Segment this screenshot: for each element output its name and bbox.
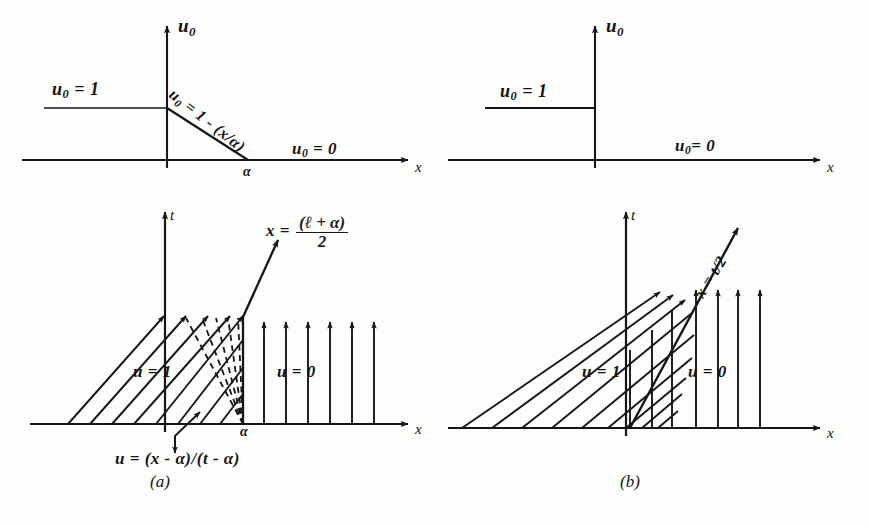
u0-axis-label: u0: [178, 16, 196, 39]
shock-path: [243, 240, 278, 424]
fan-formula-pointer: [175, 412, 200, 453]
x-axis-label: x: [827, 160, 834, 175]
u0-axis-label: u0: [606, 16, 624, 39]
shock-equation-lhs: x =: [266, 222, 290, 239]
t-axis-label: t: [631, 208, 636, 223]
panel-a-initial-profile: u0 x u0 = 1 u0 = 0 u0 = 1 - (x/α) α: [0, 0, 440, 200]
alpha-tick-label: α: [240, 425, 248, 439]
x-axis-label: x: [415, 160, 422, 175]
x-axis-label: x: [827, 426, 834, 441]
u0-equals-zero-label: u0= 0: [675, 137, 715, 157]
x-axis-label: x: [415, 422, 422, 437]
u-equals-one-region-label: u = 1: [582, 363, 621, 380]
panel-a-caption: (a): [150, 472, 170, 492]
u-equals-zero-region-label: u = 0: [688, 363, 727, 380]
panel-b-initial-profile: u0 x u0 = 1 u0= 0: [430, 0, 869, 200]
t-axis-label: t: [170, 208, 175, 223]
panel-b-characteristics-svg: [430, 200, 869, 526]
fan-formula-label: u = (x - α)/(t - α): [115, 450, 240, 467]
panel-b-characteristics: t x u = 1 u = 0 x = t/2 (b): [430, 200, 869, 526]
u0-equals-one-label: u0 = 1: [52, 80, 99, 101]
alpha-tick-label: α: [243, 165, 251, 179]
shock-equation-denominator: 2: [296, 232, 348, 251]
u0-equals-one-label: u0 = 1: [500, 82, 547, 103]
panel-b-initial-svg: [430, 0, 869, 200]
panel-a-characteristics: t x u = 1 u = 0 α u = (x - α)/(t - α) x …: [0, 200, 440, 526]
shock-equation-numerator: (ℓ + α): [296, 214, 348, 232]
figure-characteristics: u0 x u0 = 1 u0 = 0 u0 = 1 - (x/α) α: [0, 0, 869, 526]
panel-b-caption: (b): [620, 472, 640, 492]
u1-characteristics-group: [462, 292, 694, 428]
panel-a-characteristics-svg: [0, 200, 440, 526]
u0-equals-zero-label: u0 = 0: [292, 140, 337, 160]
u-equals-zero-region-label: u = 0: [277, 363, 316, 380]
shock-equation-fraction: (ℓ + α) 2: [296, 214, 348, 251]
u-equals-one-region-label: u = 1: [133, 363, 172, 380]
